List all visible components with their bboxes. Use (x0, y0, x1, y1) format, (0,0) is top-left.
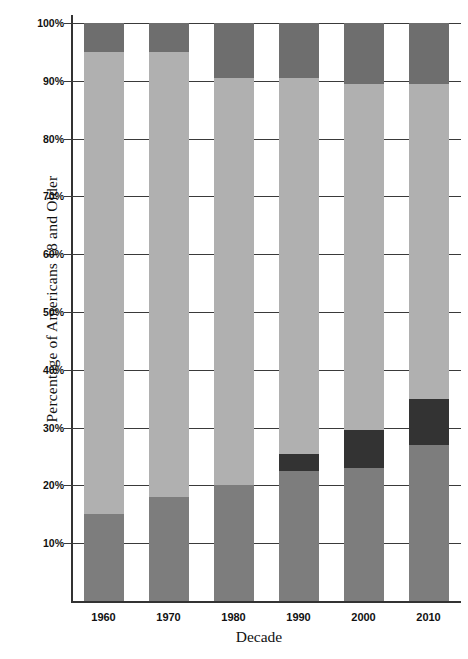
y-tick-label: 90% (43, 75, 64, 87)
gridline-100 (71, 23, 461, 24)
y-tick-label: 20% (43, 479, 64, 491)
gridline-20 (71, 485, 461, 486)
gridline-50 (71, 312, 461, 313)
x-tick-label-1970: 1970 (156, 611, 180, 623)
bar-segment-2000-never-married[interactable] (344, 468, 384, 601)
bar-segment-1990-divorced-or-widowed[interactable] (279, 454, 319, 471)
gridline-80 (71, 139, 461, 140)
y-tick-label: 80% (43, 133, 64, 145)
y-tick-label: 60% (43, 248, 64, 260)
bar-segment-1980-other[interactable] (214, 23, 254, 78)
bar-segment-2010-divorced-or-widowed[interactable] (409, 399, 449, 445)
gridline-40 (71, 370, 461, 371)
x-tick-label-1960: 1960 (91, 611, 115, 623)
bar-segment-1980-married[interactable] (214, 78, 254, 485)
y-tick-mark (64, 254, 71, 255)
y-tick-mark (64, 196, 71, 197)
y-tick-mark (64, 485, 71, 486)
gridline-90 (71, 81, 461, 82)
x-tick-label-2000: 2000 (351, 611, 375, 623)
y-tick-mark (64, 428, 71, 429)
bar-segment-1970-never-married[interactable] (149, 497, 189, 601)
gridline-70 (71, 196, 461, 197)
bar-1960[interactable] (84, 23, 124, 601)
bar-segment-1960-other[interactable] (84, 23, 124, 52)
bar-segment-2010-married[interactable] (409, 84, 449, 399)
y-tick-label: 10% (43, 537, 64, 549)
bar-segment-1990-never-married[interactable] (279, 471, 319, 601)
x-axis-line (71, 601, 461, 603)
bar-segment-2000-married[interactable] (344, 84, 384, 431)
bar-segment-1960-married[interactable] (84, 52, 124, 514)
bar-1980[interactable] (214, 23, 254, 601)
bar-segment-2010-other[interactable] (409, 23, 449, 84)
bar-2000[interactable] (344, 23, 384, 601)
bar-segment-1960-never-married[interactable] (84, 514, 124, 601)
y-axis-line (71, 15, 73, 601)
y-tick-mark (64, 139, 71, 140)
y-tick-label: 40% (43, 364, 64, 376)
x-tick-label-2010: 2010 (416, 611, 440, 623)
y-tick-label: 50% (43, 306, 64, 318)
bar-segment-2000-other[interactable] (344, 23, 384, 84)
x-axis-title-text: Decade (236, 628, 282, 645)
bar-segment-1970-married[interactable] (149, 52, 189, 497)
bar-segment-1990-other[interactable] (279, 23, 319, 78)
stacked-bar-chart: Percentage of Americans 18 and Older 10%… (0, 0, 468, 659)
bar-segment-1990-married[interactable] (279, 78, 319, 454)
y-tick-mark (64, 23, 71, 24)
y-tick-label: 70% (43, 190, 64, 202)
gridline-60 (71, 254, 461, 255)
y-tick-mark (64, 370, 71, 371)
plot-area: 10%20%30%40%50%60%70%80%90%100% 19601970… (71, 23, 461, 601)
y-tick-mark (64, 312, 71, 313)
bar-segment-2000-divorced-or-widowed[interactable] (344, 430, 384, 468)
x-tick-label-1990: 1990 (286, 611, 310, 623)
bar-segment-1970-other[interactable] (149, 23, 189, 52)
y-tick-mark (64, 81, 71, 82)
bar-2010[interactable] (409, 23, 449, 601)
bar-segment-2010-never-married[interactable] (409, 445, 449, 601)
gridline-30 (71, 428, 461, 429)
y-tick-label: 30% (43, 422, 64, 434)
x-tick-label-1980: 1980 (221, 611, 245, 623)
y-tick-mark (64, 543, 71, 544)
y-tick-label: 100% (37, 17, 64, 29)
x-axis-title: Decade (0, 628, 468, 646)
bar-1990[interactable] (279, 23, 319, 601)
bar-segment-1980-never-married[interactable] (214, 485, 254, 601)
bar-1970[interactable] (149, 23, 189, 601)
gridline-10 (71, 543, 461, 544)
